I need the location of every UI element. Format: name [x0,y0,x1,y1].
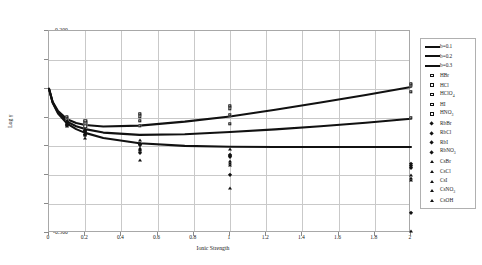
legend-item-label: CsI [440,178,447,183]
data-point-HNO₃ [409,116,412,119]
grid-line-vertical [339,31,340,231]
legend-marker-open-square-icon [424,112,440,115]
grid-line-vertical [121,31,122,231]
x-tick-mark [157,232,158,236]
x-tick-mark [410,232,411,236]
grid-line-horizontal [49,204,409,205]
data-point-CsOH [65,120,69,123]
legend-item: CsNO3 [424,186,473,196]
legend-marker-swatch [430,121,435,126]
data-point-RbI [137,141,142,146]
plot-area [48,30,410,232]
data-point-HCl [138,119,141,122]
legend-item-label: RbCl [440,130,451,135]
data-point-HCl [228,113,231,116]
grid-line-vertical [375,31,376,231]
grid-line-vertical [266,31,267,231]
legend-item: b=0.1 [424,42,473,52]
legend-item-label: b=0.3 [440,63,452,68]
x-tick-mark [84,232,85,236]
legend-marker-swatch [430,189,434,192]
legend-item-label: HBr [440,73,449,78]
data-point-CsNO₃ [409,229,413,232]
data-point-HNO₃ [138,124,141,127]
x-tick-mark [229,232,230,236]
legend-marker-swatch [430,170,434,173]
x-tick-mark [48,232,49,236]
legend-item-label: CsBr [440,159,451,164]
legend-item-label: RbNO3 [440,148,456,156]
legend-item-label: CsNO3 [440,187,455,195]
legend-marker-swatch [430,83,433,86]
x-tick-mark [338,232,339,236]
data-point-CsNO₃ [138,159,142,162]
legend-marker-filled-triangle-icon [424,199,440,202]
legend-marker-swatch [430,103,433,106]
legend-marker-filled-triangle-icon [424,189,440,192]
data-point-CsOH [228,148,232,151]
grid-line-horizontal [49,60,409,61]
legend-item-label: HNO3 [440,110,453,118]
legend-item-label: HCl [440,83,449,88]
data-point-RbNO₃ [228,173,233,178]
data-point-CsNO₃ [83,136,87,139]
data-point-CsOH [138,139,142,142]
legend-item: b=0.2 [424,52,473,62]
legend-marker-swatch [430,112,433,115]
data-point-HNO₃ [228,122,231,125]
legend-item: HNO3 [424,109,473,119]
x-tick-mark [265,232,266,236]
legend-marker-swatch [430,160,434,163]
data-point-CsI [138,149,142,152]
data-point-RbNO₃ [409,211,414,216]
x-tick-mark [193,232,194,236]
legend-marker-filled-triangle-icon [424,160,440,163]
data-point-CsI [409,179,413,182]
legend-item-label: RbI [440,140,448,145]
legend-marker-open-square-icon [424,83,440,86]
legend: b=0.1b=0.2b=0.3HBrHClHClO4HIHNO3RbBrRbCl… [420,38,476,209]
legend-marker-open-square-icon [424,103,440,106]
legend-item: b=0.3 [424,61,473,71]
legend-marker-line-icon [424,65,440,67]
x-tick-mark [120,232,121,236]
legend-marker-swatch [430,199,434,202]
data-point-HI [409,82,412,85]
legend-item: CsBr [424,157,473,167]
legend-line-swatch [425,55,440,57]
grid-line-vertical [158,31,159,231]
legend-marker-open-square-icon [424,93,440,96]
chart-figure: Log γ Ionic Strength 0.2000.1000.000-0.1… [0,0,482,265]
legend-marker-line-icon [424,55,440,57]
legend-marker-filled-diamond-icon [424,132,440,135]
legend-marker-swatch [430,131,435,136]
legend-item: HClO4 [424,90,473,100]
x-tick-mark [301,232,302,236]
grid-line-vertical [194,31,195,231]
y-axis-label: Log γ [7,115,13,128]
legend-marker-open-square-icon [424,74,440,77]
x-tick-mark [374,232,375,236]
x-axis-label-text: Ionic Strength [196,245,229,251]
data-point-CsNO₃ [65,125,69,128]
grid-line-horizontal [49,118,409,119]
x-axis-label: Ionic Strength [0,245,482,251]
legend-item: RbBr [424,119,473,129]
data-point-HI [228,104,231,107]
legend-marker-filled-triangle-icon [424,170,440,173]
data-point-CsOH [83,127,87,130]
data-point-CsNO₃ [228,186,232,189]
data-point-HI [83,119,86,122]
legend-item: CsCl [424,167,473,177]
legend-item: HI [424,100,473,110]
legend-item: HBr [424,71,473,81]
data-point-HCl [409,90,412,93]
legend-item: RbI [424,138,473,148]
grid-line-vertical [302,31,303,231]
legend-marker-filled-diamond-icon [424,122,440,125]
legend-item-label: HClO4 [440,91,455,99]
legend-item: RbNO3 [424,148,473,158]
legend-marker-swatch [430,150,435,155]
data-point-CsI [228,163,232,166]
legend-item: HCl [424,80,473,90]
